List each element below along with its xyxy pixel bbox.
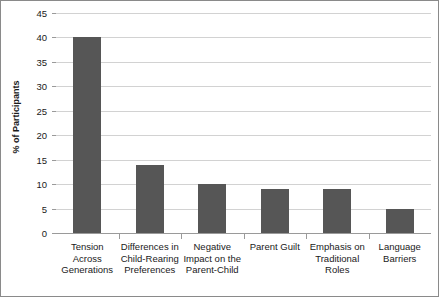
x-axis-label-line: Generations [56,264,119,276]
x-axis-tick-mark [306,234,307,239]
y-axis-tick-mark [52,13,56,14]
y-axis-tick-label: 30 [36,81,47,92]
gridline [56,86,431,87]
y-axis-tick-mark [52,160,56,161]
y-axis-tick-mark [52,62,56,63]
x-axis-label-line: Child-Rearing [119,253,182,265]
y-axis-tick-mark [52,184,56,185]
x-axis-label-line: Preferences [119,264,182,276]
bar [323,189,351,233]
x-axis-category-label: Parent Guilt [244,241,307,253]
x-axis-label-line: Barriers [369,253,432,265]
bar [261,189,289,233]
bar [136,165,164,233]
gridline [56,160,431,161]
x-axis-tick-mark [244,234,245,239]
y-axis-tick-label: 35 [36,56,47,67]
y-axis-title: % of Participants [10,80,20,153]
bar [386,209,414,233]
x-axis-label-line: Emphasis on [306,241,369,253]
y-axis-tick-mark [52,86,56,87]
y-axis-tick-label: 5 [42,203,47,214]
x-axis-category-labels: Tension AcrossGenerationsDifferences inC… [56,241,431,291]
x-axis-label-line: Language [369,241,432,253]
y-axis-tick-label: 25 [36,105,47,116]
x-axis-category-label: Tension AcrossGenerations [56,241,119,276]
y-axis-tick-mark [52,209,56,210]
x-axis-label-line: Roles [306,264,369,276]
y-axis-tick-mark [52,37,56,38]
y-axis-tick-label: 0 [42,228,47,239]
x-axis-tick-mark [369,234,370,239]
y-axis-tick-mark [52,135,56,136]
gridline [56,62,431,63]
gridline [56,135,431,136]
gridline [56,37,431,38]
y-axis-tick-label: 10 [36,179,47,190]
y-axis-tick-label: 15 [36,154,47,165]
y-axis-tick-mark [52,233,56,234]
x-axis-tick-mark [119,234,120,239]
y-axis-tick-label: 40 [36,32,47,43]
x-axis-tick-mark [181,234,182,239]
x-axis-category-label: Differences inChild-RearingPreferences [119,241,182,276]
x-axis-label-line: Parent-Child [181,264,244,276]
y-axis-tick-label: 20 [36,130,47,141]
y-axis-tick-mark [52,111,56,112]
bar [73,37,101,233]
x-axis-label-line: Impact on the [181,253,244,265]
gridline [56,184,431,185]
x-axis-label-line: Negative [181,241,244,253]
x-axis-label-line: Tension Across [56,241,119,264]
chart-figure: % of Participants 051015202530354045 Ten… [0,0,439,297]
gridline [56,13,431,14]
x-axis-label-line: Traditional [306,253,369,265]
plot-area [56,13,431,233]
bar [198,184,226,233]
x-axis-label-line: Parent Guilt [244,241,307,253]
x-axis-category-label: LanguageBarriers [369,241,432,264]
y-axis-tick-labels: 051015202530354045 [23,13,51,233]
x-axis-category-label: Emphasis onTraditionalRoles [306,241,369,276]
x-axis-category-label: NegativeImpact on theParent-Child [181,241,244,276]
gridline [56,111,431,112]
x-axis-label-line: Differences in [119,241,182,253]
y-axis-tick-label: 45 [36,8,47,19]
gridline [56,209,431,210]
